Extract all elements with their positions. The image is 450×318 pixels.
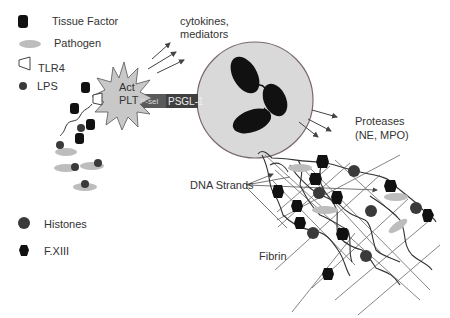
legend-tlr4-icon [19, 57, 30, 70]
cytokines-label-line1: cytokines, [180, 15, 229, 28]
net-pathogens [288, 164, 409, 236]
legend-label-lps: LPS [37, 80, 58, 93]
legend-label-tissue-factor: Tissue Factor [52, 15, 118, 28]
legend-pathogen-icon [19, 40, 41, 48]
legend-fxiii-icon [19, 245, 29, 256]
legend-tissue-factor-icon [18, 15, 28, 28]
legend-label-pathogen: Pathogen [54, 37, 101, 50]
platelet-label-plt: PLT [119, 94, 138, 107]
cytokines-label-line2: mediators [180, 28, 228, 41]
fibrin-lines [265, 155, 440, 315]
cytokine-arrows [148, 43, 184, 73]
legend-lps-icon [19, 82, 27, 90]
tlr4-receptor [93, 93, 102, 105]
legend-label-fxiii: F.XIII [44, 245, 69, 258]
legend-label-tlr4: TLR4 [38, 62, 65, 75]
platelet-label-act: Act [119, 81, 135, 94]
proteases-label-line2: (NE, MPO) [355, 129, 409, 142]
proteases-label-line1: Proteases [355, 115, 405, 128]
fibrin-label: Fibrin [259, 250, 287, 263]
legend-label-histones: Histones [44, 218, 87, 231]
net-diagram: Tissue Factor Pathogen TLR4 LPS Histones… [0, 0, 450, 318]
psgl1-label: PSGL-1 [168, 95, 204, 108]
dna-strands-label: DNA Strands [190, 179, 254, 192]
psel-label: P-sel [140, 95, 158, 108]
legend-histone-icon [18, 217, 30, 229]
neutrophil-cell [197, 42, 313, 158]
